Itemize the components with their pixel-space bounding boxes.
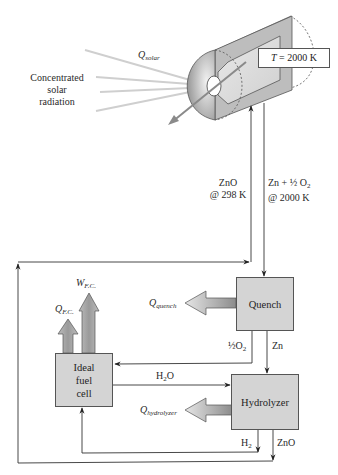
zno-out-text: ZnO — [277, 437, 295, 448]
h2-sub: 2 — [248, 442, 252, 450]
fuel-cell-line-1: Ideal — [74, 361, 95, 374]
h2o-o: O — [167, 370, 174, 381]
q-fc-label: QF.C. — [55, 303, 74, 318]
ideal-fuel-cell-unit: Ideal fuel cell — [55, 353, 113, 407]
hydrolyzer-unit: Hydrolyzer — [231, 374, 299, 430]
zno-feed-line-2: @ 298 K — [206, 189, 250, 201]
source-line-1: Concentrated — [22, 72, 92, 84]
half-o2-sub: 2 — [243, 345, 247, 353]
products-label: Zn + ½ O2 @ 2000 K — [268, 177, 310, 204]
fuel-cell-line-2: fuel — [74, 374, 95, 387]
source-line-3: radiation — [22, 96, 92, 108]
w-fc-arrow — [79, 293, 99, 353]
products-line-1: Zn + ½ O — [268, 177, 307, 188]
temperature-var: T — [271, 52, 277, 63]
q-solar-sub: solar — [145, 54, 159, 62]
half-o2-text: ½O — [228, 340, 243, 351]
quench-unit: Quench — [236, 277, 294, 331]
q-fc-sub: F.C. — [62, 308, 74, 316]
temperature-value: = 2000 K — [279, 52, 317, 63]
zno-out-label: ZnO — [277, 437, 295, 449]
products-line-2: @ 2000 K — [268, 192, 310, 204]
q-hydrolyzer-label: Qhydrolyzer — [140, 404, 177, 419]
q-fc-arrow — [58, 319, 78, 353]
quench-label: Quench — [249, 298, 282, 311]
w-fc-sub: F.C. — [84, 282, 96, 290]
w-fc-label: WF.C. — [76, 277, 96, 292]
source-line-2: solar — [22, 84, 92, 96]
q-quench-label: Qquench — [149, 297, 176, 312]
fuel-cell-line-3: cell — [74, 387, 95, 400]
q-quench-arrow — [185, 291, 236, 315]
h2-label: H2 — [241, 437, 252, 452]
zno-feed-label: ZnO @ 298 K — [206, 177, 250, 201]
zn-label: Zn — [272, 340, 283, 352]
zno-feed-line-1: ZnO — [206, 177, 250, 189]
half-o2-label: ½O2 — [228, 340, 246, 355]
q-hydrolyzer-sub: hydrolyzer — [147, 409, 177, 417]
products-line-1-sub: 2 — [307, 182, 311, 190]
solar-reactor — [168, 16, 314, 125]
reactor-temperature-box: T = 2000 K — [258, 48, 330, 68]
hydrolyzer-label: Hydrolyzer — [241, 396, 289, 409]
h2o-label: H2O — [156, 370, 174, 385]
concentrated-solar-radiation-label: Concentrated solar radiation — [22, 72, 92, 108]
q-solar-label: Qsolar — [138, 49, 160, 64]
q-quench-sub: quench — [156, 302, 176, 310]
q-hydrolyzer-arrow — [185, 398, 232, 422]
zn-text: Zn — [272, 340, 283, 351]
